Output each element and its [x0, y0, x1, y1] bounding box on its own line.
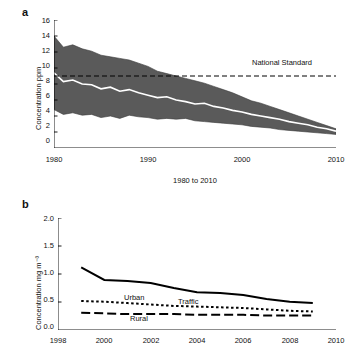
panel-a-ytick-10: 10 — [36, 61, 50, 70]
panel-a-ytick-14: 14 — [36, 31, 50, 40]
panel-a-ytick-8: 8 — [36, 76, 50, 85]
panel-a-ytick-6: 6 — [36, 91, 50, 100]
panel-b-xtick-1998: 1998 — [44, 336, 72, 345]
panel-a-ytick-0: 0 — [36, 136, 50, 145]
panel-b-xtick-2002: 2002 — [137, 336, 165, 345]
panel-a-xtick-2010: 2010 — [322, 155, 350, 164]
panel-a-xtick-1990: 1990 — [134, 155, 162, 164]
panel-b-ytick-2.0: 2.0 — [36, 214, 54, 223]
panel-b-xtick-2010: 2010 — [322, 336, 350, 345]
figure-page: a Concentration ppm 16 14 12 10 8 6 4 2 … — [0, 0, 353, 354]
panel-b-xtick-2008: 2008 — [276, 336, 304, 345]
panel-b-rural-label: Rural — [130, 314, 148, 323]
panel-b-xtick-2004: 2004 — [183, 336, 211, 345]
panel-b-ytick-1.5: 1.5 — [36, 241, 54, 250]
panel-a-ytick-12: 12 — [36, 46, 50, 55]
panel-a-xtick-1980: 1980 — [40, 155, 68, 164]
panel-b-urban-label: Urban — [124, 293, 144, 302]
panel-b-xtick-2006: 2006 — [229, 336, 257, 345]
panel-a-ytick-16: 16 — [36, 16, 50, 25]
panel-b-ytick-1.0: 1.0 — [36, 268, 54, 277]
panel-b-plot — [58, 218, 336, 330]
panel-b-traffic-label: Traffic — [178, 297, 198, 306]
panel-b-xtick-2000: 2000 — [90, 336, 118, 345]
panel-b-y-ticks — [58, 218, 62, 302]
panel-a-plot — [54, 20, 336, 148]
panel-a-range-band — [54, 36, 336, 134]
panel-a-x-axis-title: 1980 to 2010 — [140, 176, 250, 185]
panel-a-xtick-2000: 2000 — [228, 155, 256, 164]
panel-b-label: b — [22, 198, 29, 210]
panel-a-ytick-2: 2 — [36, 121, 50, 130]
panel-b-ytick-0.0: 0.0 — [36, 322, 54, 331]
panel-b-ytick-0.5: 0.5 — [36, 295, 54, 304]
panel-a-national-standard-label: National Standard — [252, 58, 312, 67]
panel-b-rural-line — [81, 313, 313, 316]
panel-a-label: a — [22, 6, 28, 18]
panel-a-ytick-4: 4 — [36, 106, 50, 115]
